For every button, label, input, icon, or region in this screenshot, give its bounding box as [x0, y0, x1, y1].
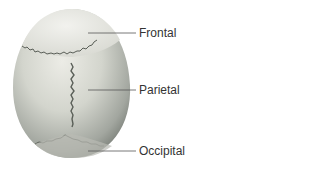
frontal-label: Frontal	[139, 27, 176, 39]
occipital-label: Occipital	[139, 145, 185, 157]
parietal-label: Parietal	[139, 84, 180, 96]
